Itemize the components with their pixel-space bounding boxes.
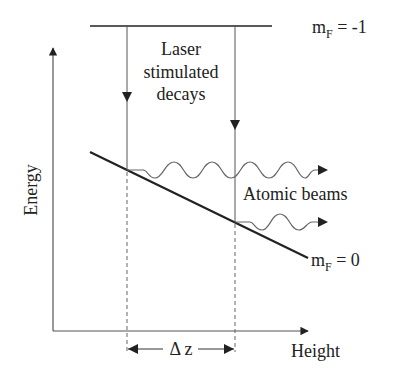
decay-arrowhead-right	[230, 120, 240, 130]
y-axis-label: Energy	[21, 164, 41, 216]
delta-z-label: Δ z	[169, 339, 192, 359]
upper-level-label: mF = -1	[312, 17, 367, 41]
x-axis-label: Height	[291, 341, 340, 361]
wavy-beam-upper	[127, 162, 328, 178]
laser-label-line3: decays	[157, 84, 206, 104]
wavy-beam-lower	[235, 214, 328, 230]
decay-arrowhead-left	[122, 92, 132, 102]
laser-label-line1: Laser	[161, 39, 201, 59]
energy-diagram: Energy Height Laser stimulated decays At…	[0, 0, 397, 386]
laser-label-line2: stimulated	[144, 62, 219, 82]
lower-level-line	[90, 152, 308, 258]
atomic-beams-label: Atomic beams	[243, 184, 347, 204]
lower-level-label: mF = 0	[311, 250, 360, 274]
